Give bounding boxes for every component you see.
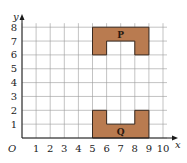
shape-q-label: Q xyxy=(117,127,125,137)
y-tick-label: 7 xyxy=(11,36,17,47)
x-tick-label: 1 xyxy=(33,143,39,154)
y-tick-label: 6 xyxy=(11,49,17,60)
x-axis-label: x xyxy=(175,139,181,150)
y-axis-arrow-icon xyxy=(20,14,25,20)
x-tick-label: 9 xyxy=(146,143,152,154)
origin-label: O xyxy=(8,143,16,154)
x-tick-label: 8 xyxy=(132,143,138,154)
x-tick-label: 2 xyxy=(47,143,53,154)
y-tick-label: 2 xyxy=(11,105,17,116)
x-tick-labels: 12345678910 xyxy=(33,143,169,154)
x-tick-label: 4 xyxy=(75,143,81,154)
x-tick-label: 10 xyxy=(157,143,170,154)
coordinate-grid-diagram: PQ x y O 12345678910 12345678 xyxy=(0,0,187,163)
y-tick-label: 5 xyxy=(11,63,17,74)
x-tick-label: 3 xyxy=(61,143,67,154)
y-tick-label: 4 xyxy=(11,77,17,88)
x-tick-label: 6 xyxy=(103,143,109,154)
y-tick-label: 8 xyxy=(11,22,17,33)
shape-p-label: P xyxy=(117,30,124,40)
x-tick-label: 5 xyxy=(89,143,95,154)
x-tick-label: 7 xyxy=(118,143,124,154)
y-tick-labels: 12345678 xyxy=(11,22,17,130)
y-tick-label: 3 xyxy=(11,91,17,102)
y-tick-label: 1 xyxy=(11,119,17,130)
y-axis-label: y xyxy=(12,11,19,22)
